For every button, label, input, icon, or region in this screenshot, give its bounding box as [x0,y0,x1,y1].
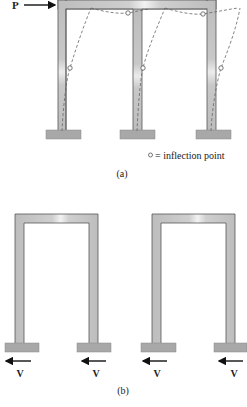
inflection-points [68,11,223,70]
inflection-point-icon [126,11,130,15]
legend-inflection-icon [149,153,153,157]
inflection-point-icon [201,12,205,16]
caption-b: (b) [117,385,129,397]
frame-a-base-left [46,130,81,139]
frame-a-column-left [58,0,66,131]
caption-a: (a) [116,168,127,180]
inflection-point-icon [219,66,223,70]
shear-label: V [16,368,24,379]
portal-frame-diagram: P = inflection point (a) V V V V (b) [0,0,247,407]
frame-b-right-base-1 [141,343,176,352]
frame-b-left-base-1 [5,343,39,352]
inflection-point-icon [68,66,72,70]
shear-label: V [92,368,100,379]
frame-a-base-right [196,130,231,139]
load-label: P [12,0,19,11]
frame-a-column-middle [133,9,142,131]
frame-a: P = inflection point (a) [12,0,240,180]
frame-b-right-base-2 [214,343,247,352]
frame-b-right [141,214,247,352]
frame-b-left-base-2 [77,343,111,352]
frame-a-base-middle [120,130,155,139]
inflection-point-icon [141,66,145,70]
frame-b-left [5,214,111,352]
shear-label: V [153,368,161,379]
shear-label: V [230,368,238,379]
legend-text: = inflection point [155,150,225,161]
frame-a-column-right [207,0,216,131]
